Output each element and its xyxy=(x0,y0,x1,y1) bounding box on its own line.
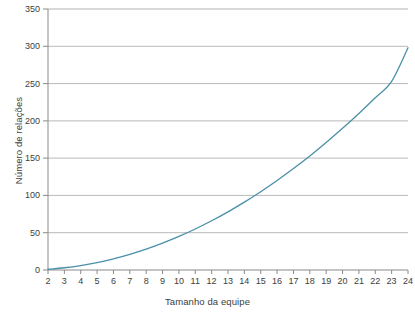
y-axis-ticks xyxy=(43,9,48,270)
y-tick-label-50: 50 xyxy=(10,228,40,238)
y-tick-label-0: 0 xyxy=(10,265,40,275)
y-axis-title: Número de relações xyxy=(13,61,24,221)
chart-figure: 350 300 250 200 150 100 50 0 23456789101… xyxy=(0,0,415,316)
y-tick-label-300: 300 xyxy=(10,41,40,51)
y-tick-label-350: 350 xyxy=(10,4,40,14)
gridlines xyxy=(48,9,408,270)
x-axis-title: Tamanho da equipe xyxy=(0,296,415,307)
x-axis-ticks xyxy=(48,270,408,274)
x-tick-label-24: 24 xyxy=(398,276,415,286)
line-chart-plot xyxy=(0,0,415,316)
